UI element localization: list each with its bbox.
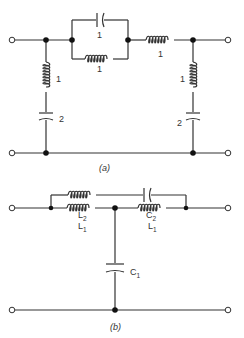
junction-dot <box>69 37 75 43</box>
label-C2: C2 <box>146 210 157 222</box>
caption-a: (a) <box>99 163 110 173</box>
capacitor-icon <box>186 113 200 120</box>
junction-dot <box>43 150 49 156</box>
label-C1: C1 <box>130 267 141 279</box>
circuit-b-nodes <box>9 205 231 313</box>
caption-b: (b) <box>110 322 121 332</box>
inductor-L2-icon <box>68 191 90 198</box>
junction-dot <box>190 37 196 43</box>
label-left-shunt-inductor: 1 <box>56 74 61 84</box>
terminal-icon <box>9 205 15 211</box>
label-L1-right: L1 <box>148 221 157 233</box>
terminal-icon <box>9 37 15 43</box>
junction-dot <box>190 150 196 156</box>
label-parallel-inductor: 1 <box>97 64 102 74</box>
terminal-icon <box>9 307 15 313</box>
inductor-icon <box>190 62 197 87</box>
label-right-shunt-capacitor: 2 <box>177 118 182 128</box>
label-series-inductor: 1 <box>158 49 163 59</box>
junction-dot <box>43 37 49 43</box>
circuit-a <box>15 13 226 153</box>
inductor-icon <box>85 55 107 62</box>
capacitor-C1-icon <box>106 264 124 272</box>
circuit-a-nodes <box>9 37 231 156</box>
terminal-icon <box>225 37 231 43</box>
capacitor-icon <box>97 13 104 27</box>
junction-dot <box>49 206 54 211</box>
terminal-icon <box>225 150 231 156</box>
circuit-a-labels: 1 1 1 1 2 1 2 (a) <box>56 30 185 173</box>
inductor-icon <box>146 36 168 43</box>
junction-dot <box>112 307 118 313</box>
label-left-shunt-capacitor: 2 <box>59 114 64 124</box>
terminal-icon <box>225 307 231 313</box>
label-L2: L2 <box>78 210 87 222</box>
circuit-b <box>15 188 226 310</box>
junction-dot <box>184 206 189 211</box>
junction-dot <box>125 37 131 43</box>
junction-dot <box>112 205 118 211</box>
label-parallel-capacitor: 1 <box>97 30 102 40</box>
capacitor-icon <box>39 113 53 120</box>
inductor-icon <box>43 62 50 87</box>
terminal-icon <box>9 150 15 156</box>
label-L1-left: L1 <box>78 221 87 233</box>
circuit-diagram: 1 1 1 1 2 1 2 (a) <box>0 0 244 338</box>
capacitor-C2-icon <box>144 188 151 202</box>
terminal-icon <box>225 205 231 211</box>
label-right-shunt-inductor: 1 <box>180 74 185 84</box>
